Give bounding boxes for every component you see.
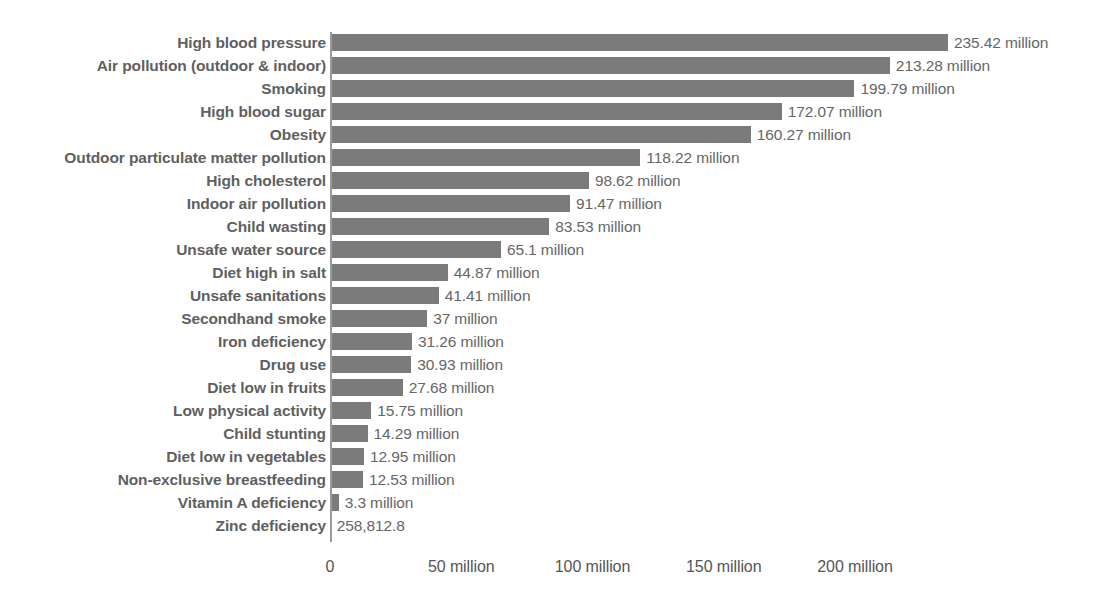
value-label: 12.95 million — [370, 445, 456, 468]
bar — [330, 103, 782, 120]
category-label: Vitamin A deficiency — [178, 491, 326, 514]
bar-row: Drug use30.93 million — [0, 353, 1100, 376]
bar-row: Unsafe water source65.1 million — [0, 238, 1100, 261]
category-label: Unsafe water source — [176, 238, 326, 261]
category-label: Diet low in fruits — [207, 376, 326, 399]
value-label: 118.22 million — [646, 146, 739, 169]
bar — [330, 402, 371, 419]
category-label: Child stunting — [223, 422, 326, 445]
bar — [330, 425, 368, 442]
value-label: 235.42 million — [954, 31, 1048, 54]
value-label: 199.79 million — [860, 77, 954, 100]
bar-row: Diet low in fruits27.68 million — [0, 376, 1100, 399]
category-label: Diet high in salt — [212, 261, 326, 284]
value-label: 213.28 million — [896, 54, 990, 77]
bar-row: Air pollution (outdoor & indoor)213.28 m… — [0, 54, 1100, 77]
category-label: Diet low in vegetables — [166, 445, 326, 468]
bar-chart: High blood pressure235.42 millionAir pol… — [0, 0, 1100, 610]
category-label: Zinc deficiency — [216, 514, 326, 537]
bar-row: Child wasting83.53 million — [0, 215, 1100, 238]
bar-row: Indoor air pollution91.47 million — [0, 192, 1100, 215]
bar — [330, 195, 570, 212]
bar-row: Low physical activity15.75 million — [0, 399, 1100, 422]
bar-row: Iron deficiency31.26 million — [0, 330, 1100, 353]
category-label: Non-exclusive breastfeeding — [118, 468, 326, 491]
category-label: High blood pressure — [177, 31, 326, 54]
value-label: 31.26 million — [418, 330, 504, 353]
x-tick-label: 200 million — [817, 556, 892, 578]
bar — [330, 333, 412, 350]
bar-row: Non-exclusive breastfeeding12.53 million — [0, 468, 1100, 491]
bar-row: Vitamin A deficiency3.3 million — [0, 491, 1100, 514]
bar — [330, 126, 751, 143]
value-label: 91.47 million — [576, 192, 662, 215]
bar-row: Secondhand smoke37 million — [0, 307, 1100, 330]
bar — [330, 149, 640, 166]
category-label: Drug use — [260, 353, 326, 376]
bar — [330, 34, 948, 51]
value-label: 37 million — [433, 307, 497, 330]
category-label: Air pollution (outdoor & indoor) — [97, 54, 326, 77]
value-label: 160.27 million — [757, 123, 851, 146]
bar-row: Diet high in salt44.87 million — [0, 261, 1100, 284]
category-label: High cholesterol — [206, 169, 326, 192]
value-label: 15.75 million — [377, 399, 463, 422]
bar — [330, 80, 854, 97]
bar — [330, 264, 448, 281]
value-label: 3.3 million — [345, 491, 414, 514]
x-tick-label: 50 million — [428, 556, 495, 578]
bar-row: Unsafe sanitations41.41 million — [0, 284, 1100, 307]
bar — [330, 310, 427, 327]
bar — [330, 218, 549, 235]
bar — [330, 57, 890, 74]
value-label: 30.93 million — [417, 353, 503, 376]
x-tick-label: 0 — [326, 556, 335, 578]
x-tick-label: 100 million — [555, 556, 630, 578]
bar-row: High cholesterol98.62 million — [0, 169, 1100, 192]
value-label: 44.87 million — [454, 261, 540, 284]
category-label: Secondhand smoke — [181, 307, 326, 330]
category-label: Child wasting — [227, 215, 326, 238]
bar — [330, 379, 403, 396]
category-label: Unsafe sanitations — [190, 284, 326, 307]
bar-row: Diet low in vegetables12.95 million — [0, 445, 1100, 468]
bar-row: Child stunting14.29 million — [0, 422, 1100, 445]
bar-row: High blood sugar172.07 million — [0, 100, 1100, 123]
bar — [330, 471, 363, 488]
bar-row: Outdoor particulate matter pollution118.… — [0, 146, 1100, 169]
value-label: 172.07 million — [788, 100, 882, 123]
value-label: 41.41 million — [445, 284, 531, 307]
category-label: Outdoor particulate matter pollution — [64, 146, 326, 169]
category-label: Obesity — [270, 123, 326, 146]
value-label: 98.62 million — [595, 169, 681, 192]
category-label: Iron deficiency — [218, 330, 326, 353]
bar — [330, 448, 364, 465]
category-label: Indoor air pollution — [187, 192, 326, 215]
bar — [330, 356, 411, 373]
bar-row: High blood pressure235.42 million — [0, 31, 1100, 54]
value-label: 27.68 million — [409, 376, 495, 399]
category-label: Smoking — [261, 77, 326, 100]
bar-row: Zinc deficiency258,812.8 — [0, 514, 1100, 537]
x-axis-line — [330, 32, 332, 542]
bar-row: Smoking199.79 million — [0, 77, 1100, 100]
value-label: 258,812.8 — [337, 514, 405, 537]
bar-row: Obesity160.27 million — [0, 123, 1100, 146]
category-label: High blood sugar — [200, 100, 326, 123]
value-label: 83.53 million — [555, 215, 641, 238]
value-label: 12.53 million — [369, 468, 455, 491]
x-tick-label: 150 million — [686, 556, 761, 578]
value-label: 14.29 million — [374, 422, 460, 445]
category-label: Low physical activity — [173, 399, 326, 422]
bar — [330, 172, 589, 189]
bar — [330, 287, 439, 304]
value-label: 65.1 million — [507, 238, 584, 261]
plot-area: High blood pressure235.42 millionAir pol… — [0, 0, 1100, 610]
bar — [330, 241, 501, 258]
